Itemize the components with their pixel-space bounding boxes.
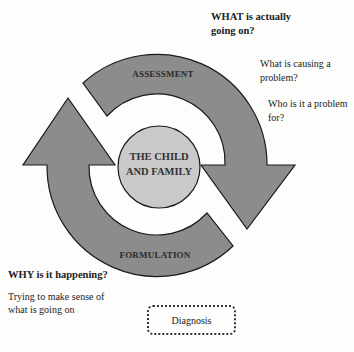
what-heading-line2: going on? xyxy=(211,24,291,38)
diagnosis-label: Diagnosis xyxy=(172,315,212,326)
why-text: Trying to make sense of what is going on xyxy=(8,290,104,316)
why-text-line2: what is going on xyxy=(8,303,104,316)
what-q2-line1: Who is it a problem xyxy=(268,97,347,111)
what-question-cause: What is causing a problem? xyxy=(260,57,331,85)
what-q2-line2: for? xyxy=(268,111,347,125)
why-heading: WHY is it happening? xyxy=(8,268,108,282)
what-heading: WHAT is actually going on? xyxy=(211,10,291,38)
what-q1-line1: What is causing a xyxy=(260,57,331,71)
what-question-who: Who is it a problem for? xyxy=(268,97,347,125)
formulation-label: FORMULATION xyxy=(119,250,190,260)
center-label-line2: AND FAMILY xyxy=(126,166,193,177)
diagnosis-box: Diagnosis xyxy=(147,305,236,335)
what-q1-line2: problem? xyxy=(260,71,331,85)
why-text-line1: Trying to make sense of xyxy=(8,290,104,303)
what-heading-line1: WHAT is actually xyxy=(211,10,291,24)
center-label-line1: THE CHILD xyxy=(129,151,189,162)
assessment-label: ASSESSMENT xyxy=(132,69,194,79)
